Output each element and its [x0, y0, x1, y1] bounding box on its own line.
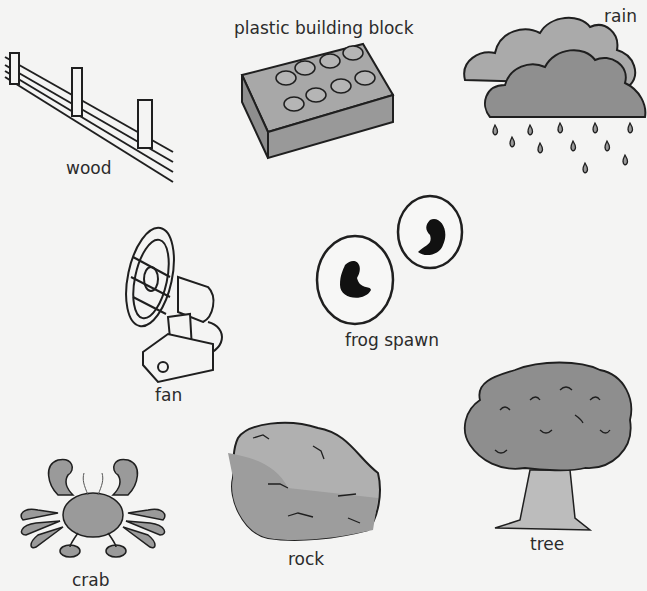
- brick-icon: [238, 40, 438, 170]
- crab-label: crab: [72, 570, 110, 590]
- wood-label: wood: [66, 158, 112, 178]
- fan-icon: [118, 222, 248, 392]
- frog-spawn-label: frog spawn: [345, 330, 439, 350]
- tree-icon: [460, 360, 640, 540]
- rock-icon: [228, 418, 388, 543]
- fan-label: fan: [155, 385, 182, 405]
- tree-label: tree: [530, 534, 564, 554]
- rain-cloud-icon: [455, 5, 647, 185]
- frog-spawn-icon: [315, 190, 475, 330]
- rock-label: rock: [288, 549, 324, 569]
- plastic-building-block-label: plastic building block: [234, 18, 414, 38]
- crab-icon: [18, 455, 168, 565]
